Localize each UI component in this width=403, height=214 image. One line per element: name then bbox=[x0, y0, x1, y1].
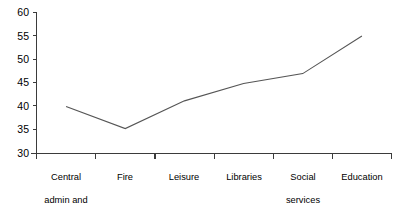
y-tick-label-30: 30 bbox=[17, 147, 29, 159]
y-axis-ticks bbox=[31, 13, 37, 154]
y-tick-label-50: 50 bbox=[17, 53, 29, 65]
y-tick-label-40: 40 bbox=[17, 100, 29, 112]
data-series-line bbox=[66, 36, 362, 129]
line-chart-figure: 60 55 50 45 40 35 30 Central admin and o… bbox=[0, 0, 403, 214]
x-axis-label-line: Education bbox=[326, 172, 398, 184]
y-tick-label-35: 35 bbox=[17, 123, 29, 135]
x-axis-label-line: services bbox=[267, 195, 339, 207]
x-axis-ticks bbox=[37, 154, 392, 160]
y-tick-label-45: 45 bbox=[17, 76, 29, 88]
x-axis-label-line: admin and bbox=[30, 195, 102, 207]
x-axis-label-education: Education bbox=[326, 160, 398, 195]
y-tick-label-60: 60 bbox=[17, 6, 29, 18]
y-axis-tick-labels: 60 55 50 45 40 35 30 bbox=[17, 6, 29, 159]
y-tick-label-55: 55 bbox=[17, 30, 29, 42]
